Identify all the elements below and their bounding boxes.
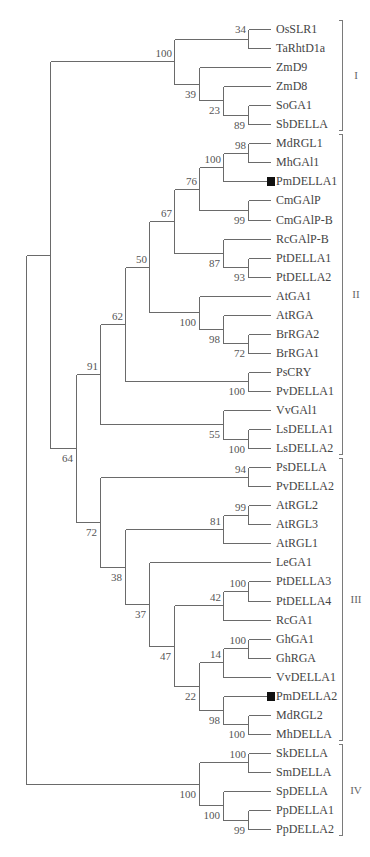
tip-label: AtRGL1 [276, 536, 318, 550]
tip-label: CmGAlP [276, 193, 321, 207]
bootstrap-value: 100 [230, 748, 247, 760]
bootstrap-value: 100 [229, 443, 246, 455]
bootstrap-value: 39 [185, 88, 197, 100]
bootstrap-value: 98 [235, 139, 247, 151]
tip-label: PpDELLA1 [276, 803, 334, 817]
tree-branches [27, 30, 271, 830]
tip-label: SbDELLA [276, 117, 328, 131]
tip-label: PtDELLA3 [276, 574, 331, 588]
bootstrap-value: 67 [161, 207, 173, 219]
tip-label: RcGA1 [276, 613, 313, 627]
bootstrap-value: 34 [235, 23, 247, 35]
tip-label: PsDELLA [276, 460, 327, 474]
tip-label: VvGAl1 [276, 403, 317, 417]
tip-label: PpDELLA2 [276, 822, 334, 836]
clade-label: I [354, 69, 358, 81]
tip-label: PmDELLA2 [276, 689, 337, 703]
bootstrap-value: 93 [234, 271, 246, 283]
highlight-square-icon [267, 692, 275, 701]
bootstrap-value: 87 [209, 257, 221, 269]
tip-label: VvDELLA1 [276, 670, 336, 684]
tip-label: SpDELLA [276, 784, 328, 798]
bootstrap-value: 76 [186, 175, 198, 187]
bootstrap-value: 100 [205, 153, 222, 165]
tip-label: BrRGA2 [276, 327, 319, 341]
bootstrap-value: 98 [209, 333, 221, 345]
bootstrap-value: 100 [180, 316, 197, 328]
highlight-square-icon [267, 177, 275, 186]
tip-label: AtRGA [276, 308, 314, 322]
tip-label: CmGAlP-B [276, 213, 333, 227]
tip-label: BrRGA1 [276, 346, 319, 360]
bootstrap-value: 37 [135, 608, 147, 620]
tip-label: AtRGL3 [276, 517, 318, 531]
bootstrap-value: 55 [209, 428, 221, 440]
bootstrap-value: 99 [234, 824, 246, 836]
tip-label: MdRGL1 [276, 136, 323, 150]
tip-label: TaRhtD1a [276, 41, 326, 55]
tip-label: PtDELLA4 [276, 594, 331, 608]
tip-label: PtDELLA2 [276, 270, 331, 284]
tip-label: SkDELLA [276, 746, 328, 760]
bootstrap-value: 22 [185, 690, 196, 702]
phylogenetic-tree: 3489233910098100997693876772981005010062… [0, 0, 370, 857]
bootstrap-value: 23 [209, 104, 221, 116]
bootstrap-value: 99 [234, 214, 246, 226]
bootstrap-value: 72 [234, 347, 245, 359]
bootstrap-value: 81 [210, 515, 221, 527]
bootstrap-value: 100 [229, 728, 246, 740]
bootstrap-value: 100 [230, 577, 247, 589]
tip-label: LsDELLA2 [276, 441, 333, 455]
tip-label: OsSLR1 [276, 22, 317, 36]
tip-label: LeGA1 [276, 555, 312, 569]
bootstrap-value: 91 [87, 360, 98, 372]
tip-label: PsCRY [276, 365, 312, 379]
tip-label: AtGA1 [276, 289, 311, 303]
tip-label: AtRGL2 [276, 498, 318, 512]
tip-labels: OsSLR1TaRhtD1aZmD9ZmD8SoGA1SbDELLAMdRGL1… [267, 22, 337, 836]
bootstrap-value: 72 [86, 526, 97, 538]
bootstrap-value: 50 [136, 253, 148, 265]
bootstrap-value: 100 [229, 385, 246, 397]
bootstrap-value: 100 [204, 809, 221, 821]
bootstrap-value: 62 [112, 310, 123, 322]
tip-label: PtDELLA1 [276, 251, 331, 265]
bootstrap-value: 64 [62, 452, 74, 464]
bootstrap-value: 94 [235, 463, 247, 475]
tip-label: MhGAl1 [276, 155, 319, 169]
bootstrap-value: 42 [210, 591, 221, 603]
bootstrap-value: 98 [209, 714, 221, 726]
bootstrap-value: 100 [230, 634, 247, 646]
bootstrap-values: 3489233910098100997693876772981005010062… [62, 23, 247, 836]
bootstrap-value: 14 [210, 648, 222, 660]
bootstrap-value: 100 [156, 47, 173, 59]
tip-label: PmDELLA1 [276, 174, 337, 188]
tip-label: LsDELLA1 [276, 422, 333, 436]
tip-label: SoGA1 [276, 98, 312, 112]
tip-label: PvDELLA2 [276, 479, 334, 493]
bootstrap-value: 47 [160, 650, 172, 662]
tip-label: ZmD9 [276, 60, 307, 74]
tip-label: GhRGA [276, 651, 316, 665]
clade-label: III [351, 593, 362, 605]
clade-label: IV [350, 784, 362, 796]
tip-label: GhGA1 [276, 632, 314, 646]
tip-label: MdRGL2 [276, 708, 323, 722]
bootstrap-value: 100 [180, 788, 197, 800]
tip-label: SmDELLA [276, 765, 332, 779]
bootstrap-value: 99 [235, 501, 247, 513]
bootstrap-value: 89 [234, 119, 246, 131]
tip-label: MhDELLA [276, 727, 332, 741]
clade-label: II [352, 288, 360, 300]
bootstrap-value: 38 [111, 571, 123, 583]
tip-label: RcGAlP-B [276, 232, 329, 246]
tip-label: PvDELLA1 [276, 384, 334, 398]
clade-brackets: IIIIIIIV [339, 21, 362, 836]
tip-label: ZmD8 [276, 79, 307, 93]
